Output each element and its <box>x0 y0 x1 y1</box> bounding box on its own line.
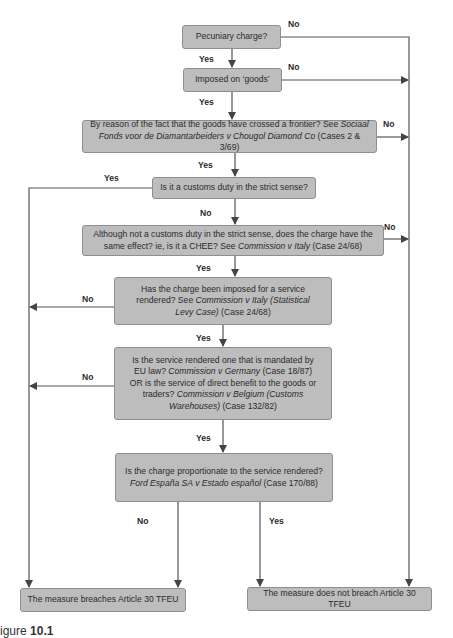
node-text: By reason of the fact that the goods hav… <box>89 119 370 154</box>
edge-label-customs-yes: Yes <box>104 173 119 183</box>
node-proportionate: Is the charge proportionate to the servi… <box>115 453 333 502</box>
node-text: Is the charge proportionate to the servi… <box>125 466 323 489</box>
result-does-not-breach: The measure does not breach Article 30 T… <box>247 587 432 611</box>
node-crossed-frontier: By reason of the fact that the goods hav… <box>82 120 377 153</box>
node-imposed-on-goods: Imposed on ‘goods’ <box>183 68 282 92</box>
case-name: Commission v Germany <box>168 366 260 376</box>
edge-label-mandated-no: No <box>82 372 93 382</box>
node-pecuniary-charge: Pecuniary charge? <box>182 25 281 49</box>
node-customs-duty: Is it a customs duty in the strict sense… <box>152 177 316 199</box>
edge-label-proportionate-no: No <box>137 516 148 526</box>
node-text: Is it a customs duty in the strict sense… <box>160 182 308 194</box>
node-service-rendered: Has the charge been imposed for a servic… <box>114 277 332 325</box>
node-text: Is the service rendered one that is mand… <box>129 355 317 413</box>
node-text: Imposed on ‘goods’ <box>195 74 270 86</box>
node-service-mandated: Is the service rendered one that is mand… <box>114 347 332 420</box>
edge-label-goods-yes: Yes <box>199 97 214 107</box>
case-name: Ford España SA v Estado español <box>130 478 261 488</box>
edge-label-frontier-no: No <box>383 119 394 129</box>
edge-label-frontier-yes: Yes <box>198 160 213 170</box>
edge-label-pecuniary-yes: Yes <box>199 54 214 64</box>
edge-label-service-no: No <box>82 294 93 304</box>
edge-label-service-yes: Yes <box>196 333 211 343</box>
edge-label-chee-yes: Yes <box>196 263 211 273</box>
result-breaches: The measure breaches Article 30 TFEU <box>20 588 186 612</box>
edge-label-mandated-yes: Yes <box>196 433 211 443</box>
edge-label-pecuniary-no: No <box>288 19 299 29</box>
node-text: The measure does not breach Article 30 T… <box>254 588 425 611</box>
edge-label-proportionate-yes: Yes <box>269 516 284 526</box>
node-text: The measure breaches Article 30 TFEU <box>28 594 179 606</box>
case-name: Commission v Italy <box>238 241 310 251</box>
node-text: Has the charge been imposed for a servic… <box>131 284 315 319</box>
edge-label-customs-no: No <box>200 208 211 218</box>
node-chee: Although not a customs duty in the stric… <box>82 225 384 256</box>
node-text: Pecuniary charge? <box>196 31 268 43</box>
figure-caption: igure 10.1 <box>0 624 53 638</box>
node-text: Although not a customs duty in the stric… <box>89 229 377 252</box>
edge-label-goods-no: No <box>288 62 299 72</box>
edge-label-chee-no: No <box>384 222 395 232</box>
